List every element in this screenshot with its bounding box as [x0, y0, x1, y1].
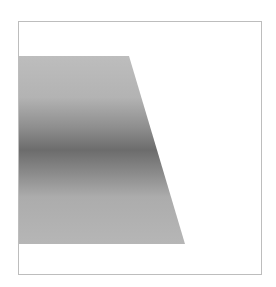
figure-caption-clipped	[18, 280, 262, 287]
